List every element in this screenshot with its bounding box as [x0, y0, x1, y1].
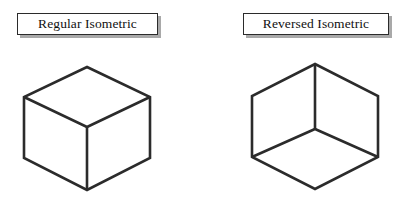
cube-regular-isometric [22, 56, 152, 194]
panel-reversed-isometric: Reversed Isometric [202, 0, 404, 203]
label-box-regular-isometric: Regular Isometric [17, 13, 158, 35]
label-box-reversed-isometric: Reversed Isometric [243, 13, 389, 35]
label-text-regular-isometric: Regular Isometric [38, 17, 137, 31]
cube-reversed-isometric [250, 56, 380, 194]
label-text-reversed-isometric: Reversed Isometric [263, 17, 369, 31]
panel-regular-isometric: Regular Isometric [0, 0, 202, 203]
diagram-canvas: Regular Isometric Reversed Isometric [0, 0, 404, 203]
